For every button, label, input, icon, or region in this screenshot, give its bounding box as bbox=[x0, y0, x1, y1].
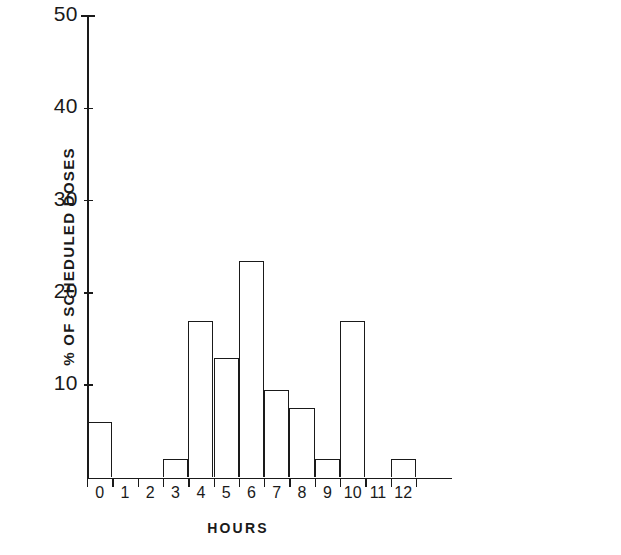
y-tick-label-wrap: 20 bbox=[26, 293, 78, 294]
bar-hour-0 bbox=[87, 422, 112, 477]
y-axis-line bbox=[87, 16, 89, 479]
bar-hour-5 bbox=[214, 358, 239, 478]
bar-hour-8 bbox=[289, 408, 314, 477]
y-tick-label-30: 30 bbox=[32, 187, 78, 211]
x-tick-label-12: 12 bbox=[386, 484, 420, 502]
bar-hour-10 bbox=[340, 321, 365, 478]
y-tick-label-wrap: 30 bbox=[26, 201, 78, 202]
bar-hour-6 bbox=[239, 261, 264, 478]
bar-hour-7 bbox=[264, 390, 289, 478]
y-tick-30 bbox=[84, 200, 93, 202]
y-tick-label-10: 10 bbox=[32, 371, 78, 395]
y-tick-label-20: 20 bbox=[32, 279, 78, 303]
y-tick-label-40: 40 bbox=[32, 94, 78, 118]
y-tick-label-wrap: 50 bbox=[26, 16, 78, 17]
y-tick-50 bbox=[81, 15, 95, 17]
y-tick-label-wrap: 10 bbox=[26, 385, 78, 386]
bar-hour-4 bbox=[188, 321, 213, 478]
y-tick-label-wrap: 40 bbox=[26, 108, 78, 109]
y-tick-20 bbox=[84, 292, 93, 294]
bar-hour-9 bbox=[315, 459, 340, 477]
x-axis-title: HOURS bbox=[88, 520, 388, 536]
histogram-figure: % OF SCHEDULED DOSES 5040302010 01234567… bbox=[0, 0, 621, 555]
bar-hour-12 bbox=[391, 459, 416, 477]
y-tick-40 bbox=[84, 108, 93, 110]
y-tick-10 bbox=[84, 384, 93, 386]
y-tick-label-50: 50 bbox=[32, 2, 78, 26]
bar-hour-3 bbox=[163, 459, 188, 477]
plot-area: 5040302010 0123456789101112 bbox=[0, 0, 621, 555]
x-axis-line bbox=[87, 478, 452, 480]
